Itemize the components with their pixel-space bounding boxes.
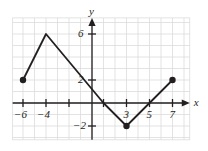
x-axis-label: x xyxy=(194,97,199,108)
axis-lines xyxy=(13,18,190,140)
y-tick-label-neg2: −2 xyxy=(73,120,86,131)
grid-lines xyxy=(13,18,190,140)
y-axis-label: y xyxy=(89,6,94,17)
x-tick-label-5: 5 xyxy=(147,109,153,120)
y-tick-label-6: 6 xyxy=(78,28,84,39)
x-tick-label-neg4: −4 xyxy=(37,109,50,120)
graph-figure: −6 −4 3 5 7 6 2 −2 x y xyxy=(0,0,208,151)
x-tick-label-3: 3 xyxy=(124,109,130,120)
x-tick-label-7: 7 xyxy=(170,109,176,120)
x-tick-label-neg6: −6 xyxy=(14,109,27,120)
y-tick-label-2: 2 xyxy=(78,74,84,85)
coordinate-plane xyxy=(0,0,208,151)
